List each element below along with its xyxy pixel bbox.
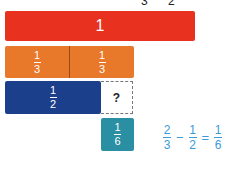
denominator: 3 [34,64,40,75]
equation: 2 3 − 1 2 = 1 6 [163,124,222,151]
numerator: 1 [215,124,222,136]
third-segment: 1 3 [5,46,69,78]
question-mark: ? [113,91,120,105]
fraction: 1 6 [114,122,121,147]
denominator: 2 [50,99,56,110]
whole-bar: 1 [5,11,195,41]
clipped-digit-right: 2 [168,0,175,8]
numerator: 1 [50,85,56,96]
third-segment: 1 3 [69,46,134,78]
numerator: 1 [34,50,40,61]
fraction-one-half: 1 2 [189,124,197,151]
whole-label: 1 [96,17,105,35]
equals-sign: = [202,130,210,145]
fraction: 1 3 [99,50,106,75]
numerator: 1 [99,50,105,61]
minus-sign: − [176,130,184,145]
fraction-two-thirds: 2 3 [163,124,171,151]
denominator: 6 [114,136,120,147]
fraction: 1 3 [34,50,41,75]
denominator: 3 [164,139,171,151]
numerator: 2 [164,124,171,136]
clipped-digit-left: 3 [141,0,148,8]
half-bar: 1 2 [5,81,101,114]
fraction-one-sixth: 1 6 [214,124,222,151]
denominator: 6 [215,139,222,151]
numerator: 1 [114,122,120,133]
unknown-box: ? [101,81,133,114]
thirds-bar: 1 3 1 3 [5,46,134,78]
sixth-box: 1 6 [101,118,134,151]
denominator: 2 [189,139,196,151]
denominator: 3 [99,64,105,75]
numerator: 1 [189,124,196,136]
fraction: 1 2 [50,85,57,110]
